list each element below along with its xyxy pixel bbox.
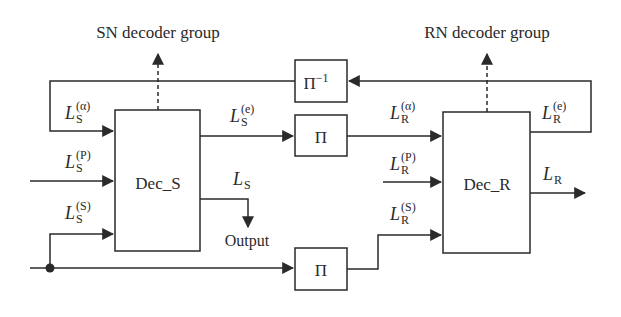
svg-text:L: L [229,106,240,126]
svg-text:S: S [244,178,251,192]
svg-text:R: R [401,163,409,177]
signal-label-ls: L S [232,169,251,192]
signal-label-lr: L R [542,164,562,187]
svg-text:(S): (S) [76,199,91,213]
svg-text:R: R [401,112,409,126]
output-label: Output [225,232,270,250]
svg-text:(α): (α) [76,99,90,113]
junction-dot [46,264,55,273]
deinterleaver-label: Π−1 [303,71,328,93]
signal-label-lr-s: L R (S) [389,200,416,227]
interleaver-bottom-label: Π [315,261,327,280]
signal-label-lr-p: L R (P) [389,150,416,177]
dec-r-label: Dec_R [463,175,511,194]
svg-text:S: S [76,112,83,126]
ls-s-line [50,234,113,268]
svg-text:L: L [389,204,400,224]
svg-text:L: L [232,169,243,189]
svg-text:L: L [64,203,75,223]
svg-text:(α): (α) [401,99,415,113]
signal-label-ls-p: L S (P) [64,148,91,175]
svg-text:(P): (P) [401,150,416,164]
svg-text:(e): (e) [553,99,566,113]
lr-s-line [347,235,441,269]
svg-text:S: S [76,212,83,226]
relay-decoder-diagram: SN decoder group RN decoder group Dec_S … [0,0,621,317]
svg-text:L: L [64,152,75,172]
svg-text:(P): (P) [76,148,91,162]
svg-text:S: S [241,115,248,129]
svg-text:(S): (S) [401,200,416,214]
signal-label-ls-s: L S (S) [64,199,91,226]
rn-group-label: RN decoder group [424,23,550,42]
signal-label-ls-e: L S (e) [229,102,254,129]
signal-label-ls-a: L S (α) [64,99,90,126]
svg-text:L: L [64,103,75,123]
svg-text:R: R [554,173,562,187]
svg-text:L: L [389,103,400,123]
signal-label-lr-a: L R (α) [389,99,415,126]
svg-text:R: R [401,213,409,227]
svg-text:S: S [76,161,83,175]
svg-text:L: L [389,154,400,174]
svg-text:(e): (e) [241,102,254,116]
sn-group-label: SN decoder group [96,23,220,42]
svg-text:L: L [541,103,552,123]
interleaver-top-label: Π [315,128,327,147]
ls-output-line [200,199,248,227]
svg-text:R: R [553,112,561,126]
signal-label-lr-e: L R (e) [541,99,566,126]
svg-text:L: L [542,164,553,184]
dec-s-label: Dec_S [135,174,180,193]
